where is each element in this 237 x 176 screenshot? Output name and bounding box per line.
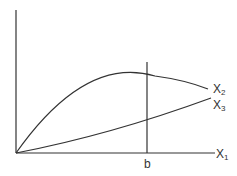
label-b: b — [144, 158, 151, 170]
label-x2-main: X — [213, 82, 221, 96]
label-x2: X2 — [213, 83, 225, 97]
label-x1-sub: 1 — [224, 153, 228, 162]
curve-x3 — [16, 98, 211, 153]
label-x3-sub: 3 — [221, 104, 225, 113]
label-x3-main: X — [213, 98, 221, 112]
diagram-canvas — [0, 0, 237, 176]
label-x1-main: X — [216, 147, 224, 161]
curve-x2 — [16, 72, 208, 153]
label-x2-sub: 2 — [221, 88, 225, 97]
label-x3: X3 — [213, 99, 225, 113]
label-x1: X1 — [216, 148, 228, 162]
